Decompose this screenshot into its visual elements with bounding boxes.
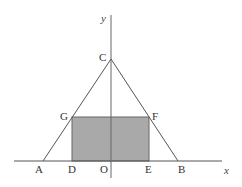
geometry-diagram: y x C G F A D O E B: [0, 0, 242, 187]
point-c-label: C: [99, 51, 106, 63]
point-e-label: E: [145, 163, 152, 175]
point-f-label: F: [152, 110, 158, 122]
point-d-label: D: [68, 163, 76, 175]
point-g-label: G: [60, 110, 68, 122]
point-b-label: B: [178, 163, 185, 175]
point-o-label: O: [100, 163, 108, 175]
point-a-label: A: [35, 163, 43, 175]
x-axis-label: x: [223, 164, 229, 176]
y-axis-label: y: [100, 12, 106, 24]
